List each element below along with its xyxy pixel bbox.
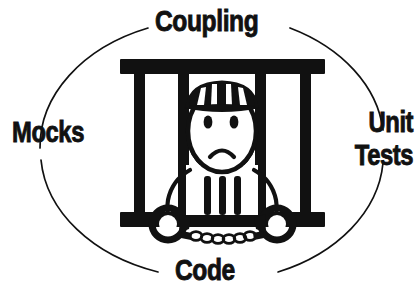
handcuff-left-inner	[159, 215, 177, 233]
eye-right-icon	[230, 115, 239, 128]
cap-stripe-2	[211, 84, 217, 105]
prison-cap	[184, 82, 260, 112]
shirt-stripes	[204, 176, 241, 215]
diagram-canvas: Coupling Mocks Unit Tests Code	[0, 0, 417, 296]
shirt-stripe-3	[234, 176, 241, 215]
handcuff-right-inner	[268, 215, 286, 233]
jail-bar-1	[134, 68, 145, 220]
jail-top-rail	[120, 59, 325, 74]
shirt-stripe-1	[204, 176, 211, 215]
label-unit-tests: Unit Tests	[355, 108, 413, 170]
label-unit-tests-line1: Unit	[355, 108, 413, 137]
label-mocks: Mocks	[12, 118, 84, 147]
eye-left-icon	[204, 115, 213, 128]
handcuff-chain	[190, 232, 256, 244]
label-code: Code	[175, 255, 235, 285]
label-coupling: Coupling	[155, 6, 258, 36]
shirt-stripe-2	[219, 176, 226, 215]
chain-anchor-left	[181, 231, 192, 240]
jail-bar-4	[300, 68, 311, 220]
cap-stripe-3	[226, 84, 232, 105]
label-unit-tests-line2: Tests	[355, 141, 413, 170]
